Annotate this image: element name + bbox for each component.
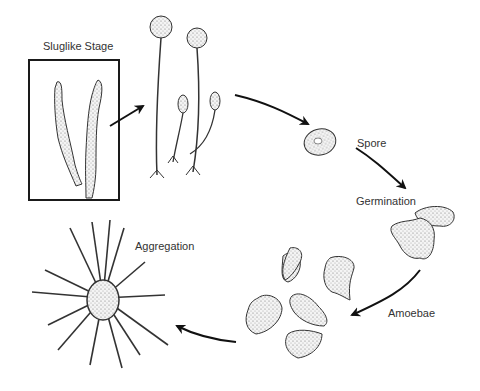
- fruiting-bodies: [150, 16, 220, 178]
- amoebae-cells: [246, 248, 354, 358]
- arrow-fruiting-to-spore: [235, 95, 308, 124]
- label-germination: Germination: [356, 195, 416, 207]
- arrow-spore-to-germination: [356, 148, 405, 188]
- label-spore: Spore: [357, 137, 386, 149]
- sluglike-stage-box: [29, 60, 119, 200]
- label-aggregation: Aggregation: [135, 240, 194, 252]
- spore-cell: [301, 125, 339, 158]
- label-amoebae: Amoebae: [388, 307, 435, 319]
- arrow-slug-to-fruiting: [110, 106, 143, 126]
- germination-cell: [391, 206, 454, 258]
- label-sluglike-stage: Sluglike Stage: [43, 40, 113, 52]
- arrow-amoebae-to-aggregation: [177, 326, 236, 342]
